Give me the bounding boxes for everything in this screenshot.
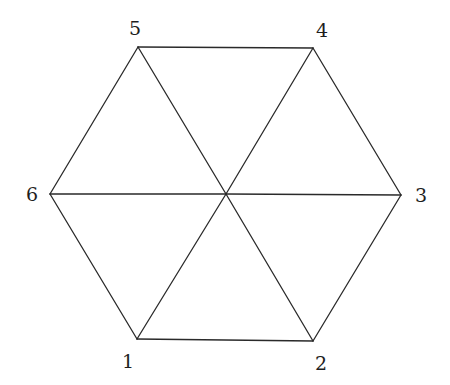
vertex-label-3: 3	[415, 184, 427, 206]
vertex-label-6: 6	[26, 183, 38, 205]
edge-4-5	[138, 47, 313, 48]
edge-4-center	[226, 48, 313, 194]
edge-3-center	[226, 194, 401, 195]
edge-2-center	[226, 194, 313, 341]
edge-group	[50, 47, 401, 341]
vertex-label-1: 1	[122, 350, 134, 372]
edge-6-1	[50, 194, 137, 339]
edge-1-center	[137, 194, 226, 339]
hexagon-diagram: 123456	[0, 0, 450, 385]
edge-5-6	[50, 47, 138, 194]
vertex-label-5: 5	[129, 17, 141, 39]
edge-3-4	[313, 48, 401, 195]
edge-2-3	[313, 195, 401, 341]
edge-1-2	[137, 339, 313, 341]
edge-5-center	[138, 47, 226, 194]
vertex-label-2: 2	[315, 352, 327, 374]
vertex-label-4: 4	[316, 19, 328, 41]
